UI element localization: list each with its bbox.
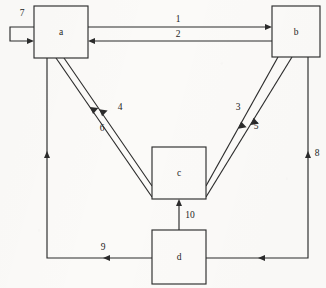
diagram-canvas: 1 2 7 4 6 3 [0,0,326,288]
edge-5: 5 [206,57,292,197]
edge-2-label: 2 [176,29,181,39]
edge-6: 6 [56,58,152,197]
edge-9-label: 9 [101,242,106,252]
edge-7-arrowhead [27,38,34,44]
edge-10-arrowhead [176,199,182,206]
edge-7-line [10,27,34,41]
edge-9-arrowhead-up [44,151,50,158]
edge-3: 3 [206,57,278,186]
edge-9: 9 [44,58,152,261]
node-b-label: b [294,27,299,37]
node-c-label: c [177,168,181,178]
edge-2-arrowhead [88,38,95,44]
edge-1-arrowhead [265,24,272,30]
edge-6-label: 6 [100,123,105,133]
edge-5-line [206,57,292,197]
node-b[interactable]: b [272,6,320,57]
edge-4-line [64,58,152,186]
diagram-svg: 1 2 7 4 6 3 [0,0,326,288]
edge-5-label: 5 [254,121,259,131]
edge-7-label: 7 [20,8,25,18]
node-d[interactable]: d [152,230,206,284]
edge-1-label: 1 [176,14,181,24]
edge-10: 10 [176,199,195,230]
node-a[interactable]: a [34,6,88,58]
node-c[interactable]: c [152,147,206,199]
edge-9-line [47,58,152,258]
edge-8-label: 8 [315,148,320,158]
edge-10-label: 10 [185,210,195,220]
node-d-label: d [177,252,182,262]
edge-1: 1 [88,14,272,30]
edge-8: 8 [206,57,320,261]
edge-4: 4 [64,58,152,186]
edge-4-label: 4 [118,102,123,112]
edge-3-line [206,57,278,186]
edge-9-arrowhead-left [103,255,110,261]
edge-7: 7 [10,8,34,44]
edge-8-arrowhead-left [258,255,265,261]
edge-2: 2 [88,29,272,44]
edge-8-arrowhead-up [305,151,311,158]
edge-3-label: 3 [236,102,241,112]
